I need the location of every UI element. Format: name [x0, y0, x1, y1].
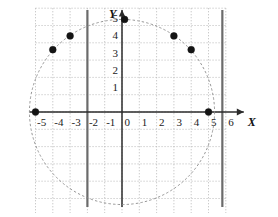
y-axis-label: Y [109, 8, 116, 20]
grid-layer [36, 8, 226, 213]
x-tick-label: -5 [37, 117, 46, 128]
x-axis-label: X [248, 116, 256, 128]
x-tick-label: -2 [89, 117, 98, 128]
vertical-lines-layer [87, 10, 222, 207]
x-tick-label: 2 [159, 117, 165, 128]
y-tick-label: 2 [113, 65, 119, 76]
x-tick-label: 6 [228, 117, 234, 128]
data-point [188, 46, 195, 53]
data-point [121, 16, 128, 23]
x-tick-label: 3 [176, 117, 182, 128]
axes-layer [30, 10, 244, 207]
x-tick-label: -4 [54, 117, 63, 128]
x-tick-label: 1 [142, 117, 148, 128]
y-tick-label: 4 [113, 30, 119, 41]
x-tick-label: -1 [106, 117, 115, 128]
x-tick-label: 5 [211, 117, 217, 128]
x-tick-label: 0 [125, 117, 131, 128]
x-tick-label: -3 [72, 117, 81, 128]
y-tick-label: 1 [113, 82, 119, 93]
plot-svg [0, 0, 278, 217]
x-axis-arrow-icon [237, 109, 244, 116]
data-point [205, 109, 212, 116]
data-point [32, 109, 39, 116]
y-axis-arrow-icon [119, 10, 125, 17]
coordinate-plane-figure: -5-4-3-2-1012345612345 X Y [0, 0, 278, 217]
data-point [67, 32, 74, 39]
data-point [171, 32, 178, 39]
x-tick-label: 4 [194, 117, 200, 128]
data-point [49, 46, 56, 53]
y-tick-label: 3 [113, 48, 119, 59]
